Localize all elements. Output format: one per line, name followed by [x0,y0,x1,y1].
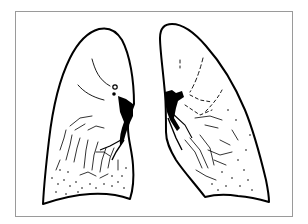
left-upper-dash-3 [190,95,212,102]
left-lower-dots [211,109,253,191]
left-lower-markings [185,116,238,180]
left-hilum [165,90,192,150]
right-fissure-2 [78,85,104,100]
left-upper-dash-2 [190,58,203,92]
lung-diagram [0,0,308,224]
right-hilum [100,85,133,160]
left-lung-outline [160,24,269,202]
left-upper-dash-5 [185,105,212,115]
right-fissure [92,59,110,86]
right-lower-dots [51,167,127,195]
